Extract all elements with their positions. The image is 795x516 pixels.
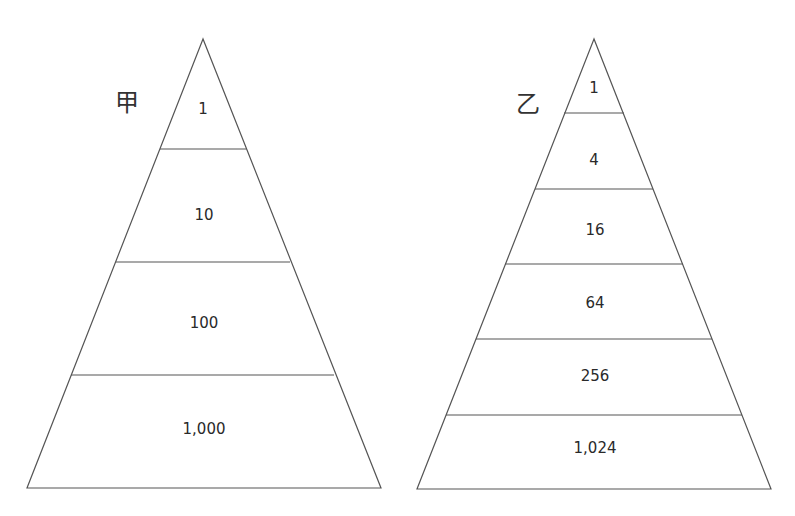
pyramid-jia-level-1: 1 bbox=[198, 100, 208, 118]
pyramid-yi-level-2: 4 bbox=[589, 151, 599, 169]
pyramid-yi-title: 乙 bbox=[516, 84, 540, 119]
pyramid-diagram bbox=[0, 0, 795, 516]
pyramid-yi-level-3: 16 bbox=[585, 221, 604, 239]
pyramid-yi-level-4: 64 bbox=[585, 294, 604, 312]
pyramid-yi-level-6: 1,024 bbox=[574, 439, 617, 457]
pyramid-yi bbox=[417, 39, 771, 489]
pyramid-jia-level-4: 1,000 bbox=[183, 420, 226, 438]
pyramid-jia-level-3: 100 bbox=[190, 314, 219, 332]
pyramid-jia-title: 甲 bbox=[115, 83, 139, 118]
pyramid-yi-level-5: 256 bbox=[581, 367, 610, 385]
pyramid-yi-level-1: 1 bbox=[589, 79, 599, 97]
pyramid-jia-level-2: 10 bbox=[194, 206, 213, 224]
